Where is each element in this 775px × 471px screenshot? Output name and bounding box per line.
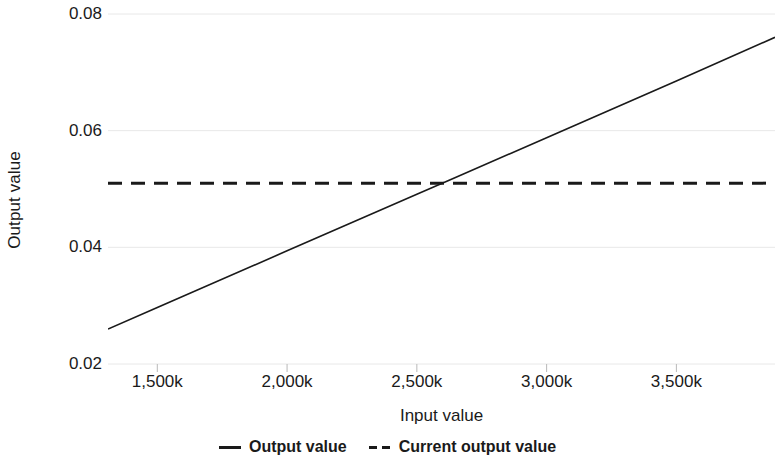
x-axis-title-label: Input value xyxy=(400,406,483,425)
chart-legend: Output valueCurrent output value xyxy=(0,438,775,456)
x-axis-tick-label: 1,500k xyxy=(132,372,183,392)
x-axis-tick-label: 2,000k xyxy=(262,372,313,392)
x-axis-tick-label: 3,500k xyxy=(651,372,702,392)
plot-area xyxy=(108,0,775,380)
x-axis-title: Input value xyxy=(108,406,775,426)
legend-label: Output value xyxy=(249,438,347,456)
x-axis-tick-labels: 1,500k2,000k2,500k3,000k3,500k xyxy=(0,372,775,402)
y-axis-tick-label: 0.02 xyxy=(36,354,102,374)
line-chart: Output value 0.080.060.040.02 1,500k2,00… xyxy=(0,0,775,471)
x-axis-tick-marks xyxy=(157,364,676,372)
legend-item[interactable]: Output value xyxy=(219,438,347,456)
legend-label: Current output value xyxy=(399,438,556,456)
y-axis-tick-labels: 0.080.060.040.02 xyxy=(30,0,102,400)
y-axis-tick-label: 0.04 xyxy=(36,237,102,257)
gridlines xyxy=(108,14,775,364)
y-axis-title: Output value xyxy=(0,0,30,400)
dashed-line-icon xyxy=(369,446,391,449)
y-axis-tick-label: 0.08 xyxy=(36,4,102,24)
plot-svg xyxy=(108,0,775,380)
x-axis-tick-label: 3,000k xyxy=(521,372,572,392)
x-axis-tick-label: 2,500k xyxy=(391,372,442,392)
y-axis-title-label: Output value xyxy=(5,151,25,249)
y-axis-tick-label: 0.06 xyxy=(36,121,102,141)
legend-item[interactable]: Current output value xyxy=(369,438,556,456)
series-lines xyxy=(108,37,775,329)
solid-line-icon xyxy=(219,446,241,449)
